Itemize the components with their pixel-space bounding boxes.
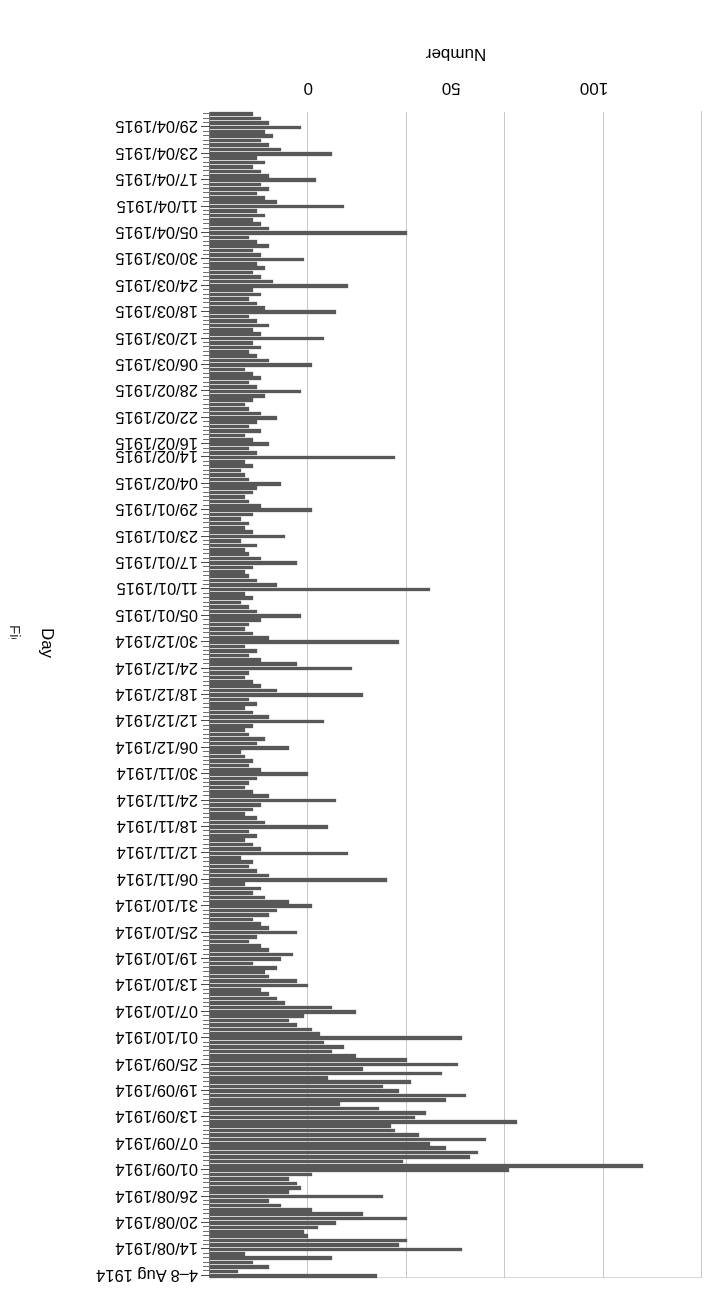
category-tick	[203, 914, 210, 915]
category-tick	[203, 1042, 210, 1043]
bar	[210, 1235, 308, 1239]
category-tick	[203, 1240, 210, 1241]
category-tick	[203, 1130, 210, 1131]
bar	[210, 909, 277, 913]
bar	[210, 359, 269, 363]
category-tick	[203, 355, 210, 356]
category-tick	[203, 584, 210, 585]
bar	[210, 966, 277, 970]
category-tick	[203, 1002, 210, 1003]
category-tick	[203, 1165, 210, 1166]
bar	[210, 451, 257, 455]
category-tick	[203, 148, 210, 149]
bar	[210, 891, 253, 895]
category-tick	[203, 949, 210, 950]
bar	[210, 293, 261, 297]
bar	[210, 319, 257, 323]
category-tick	[203, 1068, 210, 1069]
bar	[210, 993, 269, 997]
bar	[210, 843, 253, 847]
category-tick	[201, 1248, 210, 1249]
bar	[210, 737, 265, 741]
bar	[210, 944, 261, 948]
bar	[210, 799, 336, 803]
category-tick	[203, 940, 210, 941]
bar	[210, 698, 249, 702]
category-tick	[203, 646, 210, 647]
category-tick	[203, 1244, 210, 1245]
category-tick	[201, 258, 210, 259]
category-label: 23/04/1915	[115, 144, 198, 163]
category-tick	[203, 131, 210, 132]
bar	[210, 297, 249, 301]
bar	[210, 605, 249, 609]
category-tick	[203, 910, 210, 911]
category-tick	[203, 439, 210, 440]
category-tick	[203, 157, 210, 158]
bar	[210, 1186, 301, 1190]
bar	[210, 759, 253, 763]
bar	[210, 1191, 289, 1195]
bar	[210, 258, 304, 262]
category-tick	[201, 338, 210, 339]
bar	[210, 139, 261, 143]
bar	[210, 887, 261, 891]
category-tick	[203, 223, 210, 224]
category-label: 30/03/1915	[115, 250, 198, 269]
category-tick	[203, 558, 210, 559]
category-tick	[203, 632, 210, 633]
category-tick	[203, 527, 210, 528]
category-tick	[203, 236, 210, 237]
bar	[210, 663, 297, 667]
bar	[210, 1261, 253, 1265]
category-tick	[201, 1143, 210, 1144]
bar	[210, 504, 261, 508]
category-tick	[203, 681, 210, 682]
bar	[210, 918, 253, 922]
bar	[210, 614, 301, 618]
bar	[210, 957, 281, 961]
category-tick	[203, 848, 210, 849]
bar	[210, 1041, 324, 1045]
category-label: 24/11/1914	[117, 791, 198, 810]
category-label: 23/01/1915	[115, 527, 198, 546]
category-axis-title: Day	[37, 627, 57, 657]
category-tick	[203, 214, 210, 215]
bar	[210, 1089, 399, 1093]
category-tick	[203, 580, 210, 581]
category-tick	[203, 500, 210, 501]
bar	[210, 975, 269, 979]
category-tick	[203, 307, 210, 308]
category-tick	[203, 866, 210, 867]
category-label: 18/12/1914	[115, 686, 198, 705]
category-tick	[203, 276, 210, 277]
bar	[210, 557, 261, 561]
category-tick	[203, 373, 210, 374]
category-label: 17/01/1915	[115, 554, 198, 573]
category-tick	[203, 637, 210, 638]
bar	[210, 1230, 304, 1234]
bar	[210, 275, 261, 279]
bar	[210, 333, 261, 337]
category-tick	[203, 1174, 210, 1175]
bar-chart-figure: 4–8 Aug 191414/08/191420/08/191426/08/19…	[0, 0, 722, 1290]
bar-series	[210, 112, 702, 1278]
bar	[210, 302, 257, 306]
bar	[210, 425, 249, 429]
category-tick	[203, 954, 210, 955]
category-tick	[203, 936, 210, 937]
bar	[210, 1001, 285, 1005]
bar	[210, 469, 241, 473]
bar	[210, 245, 269, 249]
category-label: 4–8 Aug 1914	[96, 1266, 198, 1285]
bar	[210, 768, 261, 772]
category-tick	[203, 1178, 210, 1179]
category-tick	[203, 1134, 210, 1135]
category-tick	[203, 219, 210, 220]
category-tick	[203, 1125, 210, 1126]
bar	[210, 473, 245, 477]
bar	[210, 553, 249, 557]
bar	[210, 619, 261, 623]
bar	[210, 830, 249, 834]
category-tick	[201, 720, 210, 721]
